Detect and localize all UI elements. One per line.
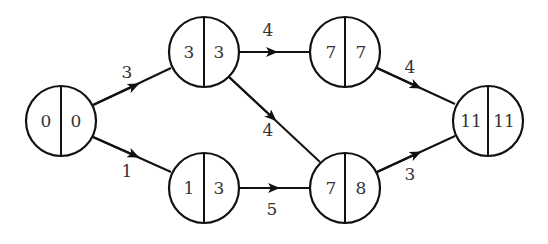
node-latest: 11 <box>493 111 515 131</box>
edge-weight: 4 <box>263 120 274 140</box>
edge-n1-n2: 3 <box>93 62 171 105</box>
edge-weight: 5 <box>267 199 278 219</box>
node-earliest: 7 <box>326 42 337 62</box>
node-n2: 3 3 <box>169 17 239 87</box>
node-latest: 3 <box>214 42 225 62</box>
edge-n2-n4: 4 <box>240 20 310 52</box>
node-latest: 0 <box>71 111 82 131</box>
edge-n4-n6: 4 <box>377 57 455 104</box>
node-earliest: 7 <box>326 178 337 198</box>
network-diagram: 3 1 4 4 5 4 3 <box>0 0 548 244</box>
node-n1: 0 0 <box>26 86 96 156</box>
node-earliest: 11 <box>460 111 482 131</box>
node-earliest: 0 <box>41 111 52 131</box>
edge-weight: 4 <box>263 20 274 40</box>
node-n4: 7 7 <box>310 17 380 87</box>
edge-weight: 3 <box>405 164 416 184</box>
node-earliest: 1 <box>184 178 195 198</box>
edge-weight: 4 <box>405 57 416 77</box>
node-n5: 7 8 <box>310 153 380 223</box>
node-latest: 8 <box>356 178 367 198</box>
edge-n5-n6: 3 <box>377 136 455 184</box>
node-latest: 7 <box>356 42 367 62</box>
edge-n2-n5: 4 <box>229 77 320 162</box>
node-earliest: 3 <box>184 42 195 62</box>
edge-n3-n5: 5 <box>240 188 310 219</box>
node-n6: 11 11 <box>453 86 523 156</box>
edge-weight: 3 <box>122 62 133 82</box>
node-n3: 1 3 <box>169 153 239 223</box>
edge-n1-n3: 1 <box>93 137 171 181</box>
edge-weight: 1 <box>122 161 133 181</box>
node-latest: 3 <box>214 178 225 198</box>
